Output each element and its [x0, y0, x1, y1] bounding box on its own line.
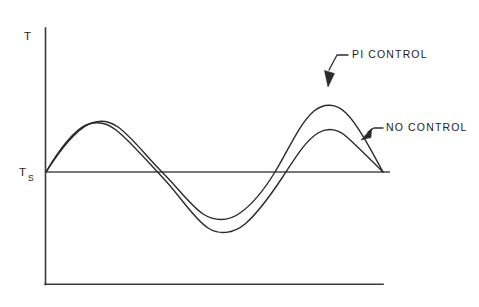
figure-root: PI CONTROL NO CONTROL T T S	[0, 0, 479, 307]
y-axis-label: T	[24, 30, 31, 42]
no-control-label: NO CONTROL	[386, 121, 468, 133]
pi-control-label: PI CONTROL	[352, 48, 428, 60]
setpoint-label-subscript: S	[28, 173, 34, 183]
setpoint-label-main: T	[19, 166, 26, 178]
chart-background	[0, 0, 479, 307]
temperature-response-chart: PI CONTROL NO CONTROL T T S	[0, 0, 479, 307]
